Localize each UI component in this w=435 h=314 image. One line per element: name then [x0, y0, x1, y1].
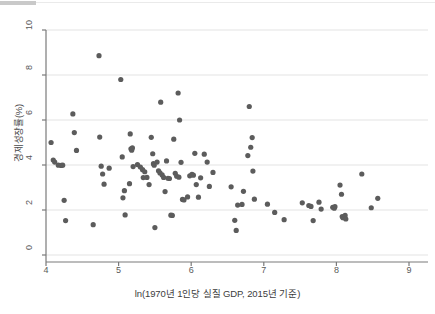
x-tick-label-6: 6: [181, 265, 201, 275]
scatter-point: [316, 200, 321, 205]
scatter-point: [311, 218, 316, 223]
scatter-point: [170, 213, 175, 218]
scatter-point: [176, 90, 181, 95]
x-tick-label-8: 8: [326, 265, 346, 275]
scatter-point: [245, 153, 250, 158]
scatter-point: [185, 194, 190, 199]
scatter-point: [164, 158, 169, 163]
scatter-point: [97, 135, 102, 140]
scatter-point: [62, 198, 67, 203]
scatter-point: [120, 195, 125, 200]
scatter-point: [146, 182, 151, 187]
scatter-point: [130, 145, 135, 150]
scatter-point: [161, 175, 166, 180]
scatter-point: [127, 181, 132, 186]
scatter-point: [241, 189, 246, 194]
scatter-point: [359, 171, 364, 176]
scatter-point: [239, 202, 244, 207]
scatter-point: [171, 137, 176, 142]
scatter-point: [300, 200, 305, 205]
scatter-point: [232, 218, 237, 223]
scatter-point: [375, 196, 380, 201]
scatter-point: [250, 135, 255, 140]
scatter-point: [152, 225, 157, 230]
y-tick-label-10: 10: [24, 20, 34, 38]
scatter-point: [101, 182, 106, 187]
scatter-point: [235, 202, 240, 207]
scatter-points-group: [48, 53, 380, 233]
y-axis-title: 경제성장률(%): [11, 63, 25, 203]
y-tick-label-2: 2: [24, 200, 34, 218]
scatter-point: [176, 175, 181, 180]
scatter-point: [207, 184, 212, 189]
scatter-point: [198, 175, 203, 180]
scatter-point: [149, 135, 154, 140]
scatter-point: [250, 168, 255, 173]
scatter-point: [96, 53, 101, 58]
scatter-point: [70, 111, 75, 116]
scatter-point: [60, 163, 65, 168]
scatter-point: [100, 171, 105, 176]
scatter-point: [99, 164, 104, 169]
scatter-point: [123, 212, 128, 217]
scatter-point: [120, 154, 125, 159]
y-tick-label-8: 8: [24, 65, 34, 83]
scatter-point: [162, 189, 167, 194]
scatter-point: [144, 175, 149, 180]
scatter-point: [337, 182, 342, 187]
scatter-point: [107, 166, 112, 171]
scatter-point: [332, 204, 337, 209]
y-tick-label-0: 0: [24, 245, 34, 263]
scatter-point: [229, 184, 234, 189]
x-tick-label-9: 9: [399, 265, 419, 275]
scatter-point: [177, 117, 182, 122]
scatter-point: [118, 77, 123, 82]
scatter-point: [252, 197, 257, 202]
scatter-point: [343, 216, 348, 221]
tick-marks-group: [42, 30, 409, 266]
scatter-chart-figure: 경제성장률(%) ln(1970년 1인당 실질 GDP, 2015년 기준) …: [0, 0, 435, 314]
x-tick-label-4: 4: [36, 265, 56, 275]
scatter-point: [234, 228, 239, 233]
scatter-point: [150, 151, 155, 156]
scatter-point: [205, 159, 210, 164]
scatter-point: [282, 217, 287, 222]
y-tick-label-4: 4: [24, 155, 34, 173]
scatter-point: [319, 207, 324, 212]
scatter-point: [154, 159, 159, 164]
scatter-point: [308, 204, 313, 209]
plot-canvas: [0, 0, 435, 314]
axis-lines-group: [46, 30, 428, 262]
scatter-point: [178, 160, 183, 165]
scatter-point: [48, 140, 53, 145]
scatter-point: [91, 222, 96, 227]
x-axis-title: ln(1970년 1인당 실질 GDP, 2015년 기준): [0, 286, 435, 300]
scatter-point: [272, 210, 277, 215]
scatter-point: [247, 104, 252, 109]
scatter-point: [265, 202, 270, 207]
x-tick-label-7: 7: [254, 265, 274, 275]
scatter-point: [196, 195, 201, 200]
scatter-point: [74, 148, 79, 153]
scatter-point: [194, 182, 199, 187]
scatter-point: [248, 145, 253, 150]
scatter-point: [128, 131, 133, 136]
scatter-point: [191, 173, 196, 178]
scatter-point: [122, 188, 127, 193]
scatter-point: [339, 192, 344, 197]
scatter-point: [63, 218, 68, 223]
scatter-point: [210, 170, 215, 175]
scatter-point: [158, 100, 163, 105]
scatter-point: [202, 152, 207, 157]
scatter-point: [369, 205, 374, 210]
scatter-point: [72, 130, 77, 135]
y-tick-label-6: 6: [24, 110, 34, 128]
scatter-point: [167, 176, 172, 181]
scatter-point: [192, 151, 197, 156]
x-tick-label-5: 5: [109, 265, 129, 275]
scatter-point: [142, 169, 147, 174]
